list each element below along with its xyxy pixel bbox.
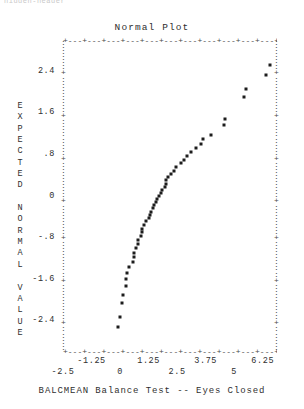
x-tick-label: 5	[231, 368, 237, 377]
data-point	[170, 172, 173, 175]
data-point	[125, 271, 128, 274]
data-point	[174, 165, 177, 168]
y-tick-label: -1.6	[15, 275, 55, 284]
data-point	[125, 278, 128, 281]
data-point	[172, 169, 175, 172]
data-point	[159, 191, 162, 194]
data-point	[124, 284, 127, 287]
data-point	[186, 154, 189, 157]
data-point	[194, 147, 197, 150]
data-point	[155, 201, 158, 204]
x-axis-label: BALCMEAN Balance Test -- Eyes Closed	[0, 386, 304, 396]
y-axis-label-char: D	[14, 180, 26, 191]
data-point	[268, 63, 271, 66]
x-tick-label: 6.25	[251, 357, 274, 366]
data-point	[118, 316, 121, 319]
data-point	[149, 213, 152, 216]
data-point	[201, 138, 204, 141]
data-point	[157, 195, 160, 198]
y-axis-label-char: P	[14, 124, 26, 135]
data-point	[131, 261, 134, 264]
data-point	[156, 198, 159, 201]
x-tick-label: 1.25	[137, 357, 160, 366]
data-point	[163, 185, 166, 188]
x-tick-label: 3.75	[194, 357, 217, 366]
data-point	[141, 227, 144, 230]
data-point	[244, 88, 247, 91]
data-point	[122, 293, 125, 296]
data-point	[147, 217, 150, 220]
y-axis-label-char: E	[14, 135, 26, 146]
data-point	[264, 73, 267, 76]
y-tick-label: 0	[15, 192, 55, 201]
y-axis-label-char: T	[14, 158, 26, 169]
x-tick-label: 0	[117, 368, 123, 377]
data-point	[164, 182, 167, 185]
data-point	[145, 220, 148, 223]
y-axis-label-char: L	[14, 260, 26, 271]
y-tick-label: -.8	[15, 233, 55, 242]
data-point	[152, 207, 155, 210]
data-point	[167, 176, 170, 179]
scatter-points	[63, 40, 277, 352]
y-tick-label: 1.6	[15, 108, 55, 117]
y-axis-label-char: V	[14, 283, 26, 294]
data-point	[117, 326, 120, 329]
data-point	[149, 210, 152, 213]
data-point	[132, 251, 135, 254]
y-axis-label-char: A	[14, 294, 26, 305]
plot-frame: +---+---+---+---+---+---+---+---+---+---…	[63, 40, 277, 352]
data-point	[222, 123, 225, 126]
y-axis-label-char: N	[14, 203, 26, 214]
data-point	[140, 231, 143, 234]
data-point	[143, 224, 146, 227]
data-point	[165, 179, 168, 182]
data-point	[161, 188, 164, 191]
data-point	[189, 150, 192, 153]
data-point	[152, 204, 155, 207]
y-axis-label: EXPECTED NORMAL VALUE	[14, 101, 26, 339]
data-point	[135, 247, 138, 250]
data-point	[136, 242, 139, 245]
data-point	[210, 134, 213, 137]
data-point	[180, 162, 183, 165]
plot-title: Normal Plot	[0, 22, 304, 33]
x-tick-label: 2.5	[169, 368, 186, 377]
y-axis-label-char: E	[14, 328, 26, 339]
y-tick-label: -2.4	[15, 316, 55, 325]
window-header-fragment: hidden-header	[4, 0, 65, 4]
data-point	[128, 266, 131, 269]
y-tick-label: .8	[15, 150, 55, 159]
data-point	[200, 143, 203, 146]
y-axis-label-char: L	[14, 305, 26, 316]
data-point	[139, 235, 142, 238]
data-point	[132, 255, 135, 258]
data-point	[137, 239, 140, 242]
data-point	[224, 118, 227, 121]
data-point	[243, 96, 246, 99]
x-tick-label: -2.5	[52, 368, 75, 377]
x-tick-label: -1.25	[77, 357, 106, 366]
y-axis-label-char: A	[14, 248, 26, 259]
y-tick-label: 2.4	[15, 67, 55, 76]
y-axis-label-char: E	[14, 169, 26, 180]
data-point	[121, 301, 124, 304]
data-point	[182, 158, 185, 161]
y-axis-label-char: O	[14, 214, 26, 225]
